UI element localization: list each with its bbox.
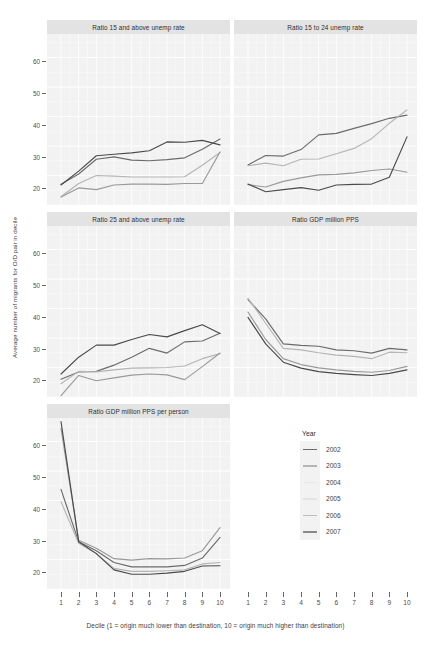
panel-ratio-25-and-above: Ratio 25 and above unemp rate [47,212,230,397]
x-tick-mark [185,592,186,597]
panel-svg-4 [234,226,417,397]
x-tick-mark [132,592,133,597]
y-tick-row1: 30 [26,154,46,161]
legend-item[interactable]: 2005 [300,491,410,508]
panel-svg-3 [47,226,230,397]
legend-key-swatch [300,507,320,524]
panel-svg-5 [47,418,230,589]
x-tick-mark [96,592,97,597]
x-tick-mark [202,592,203,597]
plot-area [47,226,230,397]
legend-title: Year [300,430,410,437]
x-tick-label: 1 [241,599,255,606]
panel-strip-header: Ratio 15 to 24 unemp rate [234,20,417,34]
x-tick-mark [336,592,337,597]
y-tick-row2: 20 [26,377,46,384]
legend-item[interactable]: 2002 [300,441,410,458]
x-tick-mark [354,592,355,597]
panel-svg-2 [234,34,417,205]
plot-area [47,34,230,205]
legend-key-swatch [300,491,320,508]
legend-key-swatch [300,441,320,458]
panel-ratio-15-to-24: Ratio 15 to 24 unemp rate [234,20,417,205]
panel-strip-header: Ratio 25 and above unemp rate [47,212,230,226]
x-tick-label: 5 [312,599,326,606]
legend-item[interactable]: 2007 [300,524,410,541]
y-tick-row3: 40 [26,506,46,513]
legend-item[interactable]: 2004 [300,474,410,491]
y-tick-row1: 20 [26,185,46,192]
panel-strip-header: Ratio 15 and above unemp rate [47,20,230,34]
x-tick-mark [167,592,168,597]
y-tick-row2: 50 [26,282,46,289]
x-tick-mark [407,592,408,597]
x-tick-label: 8 [365,599,379,606]
x-tick-label: 1 [54,599,68,606]
y-tick-row3: 60 [26,442,46,449]
x-tick-label: 10 [213,599,227,606]
plot-area [47,418,230,589]
x-tick-label: 10 [400,599,414,606]
panel-ratio-gdp-million-pps-per-person: Ratio GDP million PPS per person [47,404,230,589]
x-tick-mark [389,592,390,597]
panel-ratio-15-and-above: Ratio 15 and above unemp rate [47,20,230,205]
panel-strip-header: Ratio GDP million PPS per person [47,404,230,418]
x-tick-label: 9 [195,599,209,606]
legend-line-icon [303,449,317,451]
y-tick-row3: 50 [26,474,46,481]
panel-ratio-gdp-million-pps: Ratio GDP million PPS [234,212,417,397]
legend-item[interactable]: 2006 [300,507,410,524]
plot-area [234,226,417,397]
x-tick-label: 9 [382,599,396,606]
x-tick-mark [283,592,284,597]
legend-item-label: 2006 [326,512,341,519]
y-tick-row2: 60 [26,250,46,257]
legend-line-icon [303,498,317,500]
x-tick-label: 8 [178,599,192,606]
panel-title: Ratio 15 and above unemp rate [92,24,184,31]
legend-line-icon [303,465,317,467]
legend-line-icon [303,515,317,517]
x-tick-label: 5 [125,599,139,606]
y-tick-row1: 40 [26,122,46,129]
x-tick-label: 4 [107,599,121,606]
x-tick-label: 3 [276,599,290,606]
legend-item-label: 2007 [326,528,341,535]
x-axis-ticks-right: 12345678910 [234,592,417,610]
x-tick-label: 6 [142,599,156,606]
x-tick-mark [301,592,302,597]
legend-line-icon [303,482,317,484]
x-axis-ticks-left: 12345678910 [47,592,230,610]
x-tick-mark [372,592,373,597]
x-tick-mark [114,592,115,597]
y-tick-row1: 50 [26,90,46,97]
x-tick-label: 2 [259,599,273,606]
legend-key-swatch [300,458,320,475]
y-tick-row3: 30 [26,538,46,545]
legend-item-label: 2003 [326,462,341,469]
x-tick-label: 3 [89,599,103,606]
x-axis-title: Decile (1 = origin much lower than desti… [0,622,431,629]
legend-items: 200220032004200520062007 [300,441,410,540]
legend-item[interactable]: 2003 [300,458,410,475]
legend-item-label: 2002 [326,446,341,453]
y-axis-title: Average number of migrants for O/D pair … [11,188,18,388]
legend-key-swatch [300,524,320,541]
panel-title: Ratio 15 to 24 unemp rate [287,24,363,31]
panel-strip-header: Ratio GDP million PPS [234,212,417,226]
x-tick-label: 6 [329,599,343,606]
chart-root: Average number of migrants for O/D pair … [0,0,431,651]
panel-title: Ratio GDP million PPS [292,216,359,223]
x-tick-mark [79,592,80,597]
legend-item-label: 2005 [326,495,341,502]
y-tick-row2: 40 [26,314,46,321]
x-tick-label: 7 [160,599,174,606]
y-tick-row3: 20 [26,569,46,576]
panel-title: Ratio GDP million PPS per person [88,408,188,415]
x-tick-mark [61,592,62,597]
legend: Year 200220032004200520062007 [300,430,410,540]
panel-title: Ratio 25 and above unemp rate [92,216,184,223]
x-tick-mark [220,592,221,597]
y-tick-row1: 60 [26,58,46,65]
x-tick-mark [319,592,320,597]
